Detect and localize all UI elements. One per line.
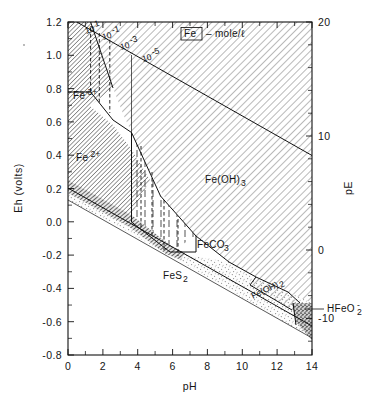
species-hfeo2-base: HFeO (327, 303, 355, 314)
x-tick-label-3: 6 (169, 360, 175, 372)
header-units: – mole/ℓ (206, 28, 245, 39)
y-axis-right: 20 10 0 -10 pE (306, 16, 354, 341)
plot-overlay (68, 17, 312, 355)
x-tick-label-5: 10 (236, 360, 248, 372)
x-tick-label-7: 14 (306, 360, 318, 372)
y2-tick-label-0: 20 (318, 16, 330, 28)
y-tick-label-9: -0.6 (42, 316, 62, 328)
y-tick-label-0: 1.2 (46, 16, 62, 28)
species-feoh3-sub: 3 (241, 178, 246, 188)
y-axis-left: 1.2 1.0 0.8 0.6 0.4 0.2 0.0 -0.2 -0.4 -0… (12, 16, 74, 361)
x-tick-label-4: 8 (204, 360, 210, 372)
header-symbol: Fe (184, 28, 196, 39)
y2-tick-label-3: -10 (318, 312, 334, 324)
x-tick-label-1: 2 (100, 360, 106, 372)
species-fes2-base: FeS (163, 270, 182, 281)
x-axis-title: pH (183, 380, 197, 392)
y-tick-label-2: 0.8 (46, 83, 62, 95)
y-tick-label-10: -0.8 (42, 349, 62, 361)
y-tick-label-6: 0.0 (46, 216, 62, 228)
pourbaix-figure: 1.2 1.0 0.8 0.6 0.4 0.2 0.0 -0.2 -0.4 -0… (0, 0, 369, 405)
species-fe3-sup: 3+ (88, 87, 98, 97)
scan-speck (23, 44, 25, 46)
species-fe2-base: Fe (76, 152, 88, 163)
x-tick-label-2: 4 (135, 360, 141, 372)
species-hfeo2-sup: - (357, 300, 360, 310)
y-tick-label-8: -0.4 (42, 282, 62, 294)
x-tick-label-6: 12 (271, 360, 283, 372)
y-tick-label-5: 0.2 (46, 183, 62, 195)
y-tick-label-7: -0.2 (42, 249, 62, 261)
y2-axis-title: pE (342, 181, 354, 195)
y-tick-label-1: 1.0 (46, 49, 62, 61)
eh-ph-diagram: 1.2 1.0 0.8 0.6 0.4 0.2 0.0 -0.2 -0.4 -0… (0, 0, 369, 405)
y-tick-label-4: 0.4 (46, 149, 62, 161)
species-fes2-sub: 2 (183, 274, 188, 284)
y2-tick-label-1: 10 (318, 130, 330, 142)
y-axis-title: Eh (volts) (12, 163, 24, 212)
y2-tick-label-2: 0 (318, 244, 324, 256)
header-label: Fe – mole/ℓ (181, 28, 245, 41)
species-feco3-base: FeCO (197, 239, 225, 250)
x-tick-label-0: 0 (65, 360, 71, 372)
y-tick-label-3: 0.6 (46, 116, 62, 128)
species-feco3-sub: 3 (224, 243, 229, 253)
species-fe2-sup: 2+ (91, 149, 101, 159)
species-feoh3-base: Fe(OH) (205, 174, 240, 185)
